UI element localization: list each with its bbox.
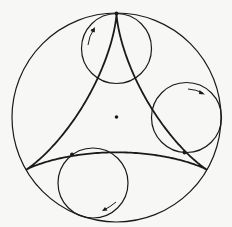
deltoid-diagram [0,0,232,227]
tracing-point-right [183,151,187,155]
background [0,0,232,227]
tracing-point-top [115,12,119,16]
center-point [115,115,119,119]
tracing-point-bottom [70,153,74,157]
